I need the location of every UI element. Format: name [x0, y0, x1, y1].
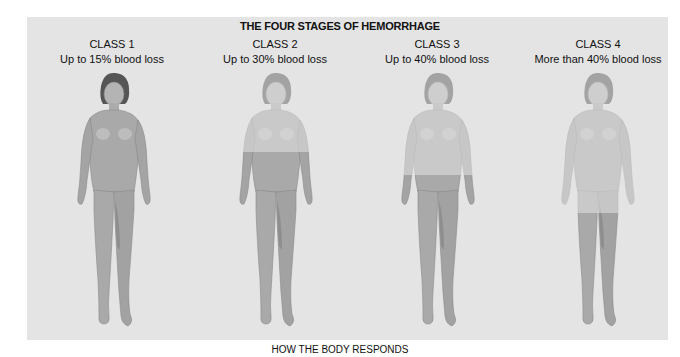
- stage-label-1: CLASS 1 Up to 15% blood loss: [27, 37, 197, 67]
- blood-loss-label: More than 40% blood loss: [513, 52, 680, 67]
- stage-label-4: CLASS 4 More than 40% blood loss: [513, 37, 680, 67]
- class-label: CLASS 1: [27, 37, 197, 52]
- figure-title: THE FOUR STAGES OF HEMORRHAGE: [0, 20, 680, 32]
- blood-loss-label: Up to 40% blood loss: [352, 52, 522, 67]
- body-figure-class-4: [552, 70, 642, 332]
- body-figure-class-1: [68, 70, 158, 332]
- class-label: CLASS 4: [513, 37, 680, 52]
- blood-loss-label: Up to 15% blood loss: [27, 52, 197, 67]
- class-label: CLASS 2: [190, 37, 360, 52]
- body-figure-class-3: [392, 70, 482, 332]
- class-label: CLASS 3: [352, 37, 522, 52]
- stage-label-2: CLASS 2 Up to 30% blood loss: [190, 37, 360, 67]
- body-figure-class-2: [230, 70, 320, 332]
- blood-loss-label: Up to 30% blood loss: [190, 52, 360, 67]
- figure-caption: HOW THE BODY RESPONDS: [0, 344, 680, 355]
- stage-label-3: CLASS 3 Up to 40% blood loss: [352, 37, 522, 67]
